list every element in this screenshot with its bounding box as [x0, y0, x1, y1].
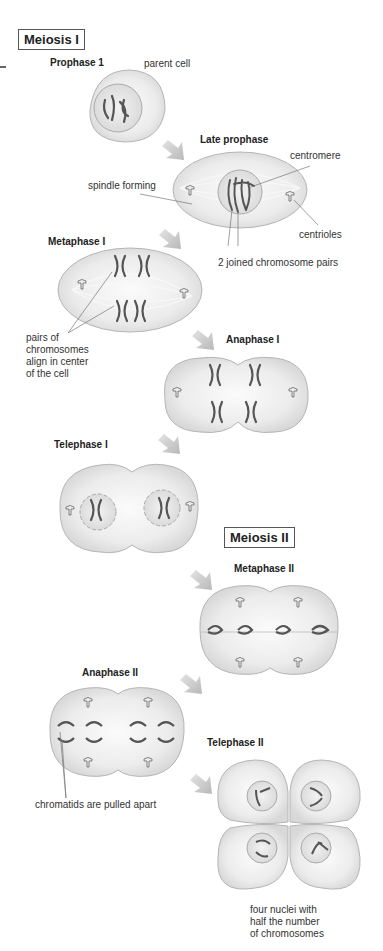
stage-anaphase2: Anaphase II	[82, 667, 138, 678]
label-centrioles: centrioles	[299, 229, 342, 241]
prophase1-cell	[90, 70, 165, 142]
label-joined-pairs: 2 joined chromosome pairs	[218, 257, 338, 269]
stage-anaphase1: Anaphase I	[226, 334, 279, 345]
metaphase1-cell	[58, 248, 202, 332]
stage-prophase1: Prophase 1	[50, 57, 104, 68]
stage-telephase2: Telephase II	[207, 737, 264, 748]
stage-metaphase1: Metaphase I	[48, 236, 105, 247]
stage-late-prophase: Late prophase	[200, 134, 268, 145]
late-prophase-cell	[173, 152, 307, 228]
meiosis2-heading: Meiosis II	[224, 527, 295, 548]
label-line: pairs of	[26, 332, 89, 344]
label-line: chromosomes	[26, 344, 89, 356]
telephase1-cell	[60, 464, 198, 552]
label-line: of chromosomes	[250, 928, 324, 940]
label-centromere: centromere	[290, 150, 341, 162]
label-line: four nuclei with	[250, 904, 324, 916]
label-line: of the cell	[26, 368, 89, 380]
label-spindle-forming: spindle forming	[88, 180, 156, 192]
label-line: half the number	[250, 916, 324, 928]
metaphase2-cell	[200, 586, 338, 675]
meiosis1-heading: Meiosis I	[18, 29, 85, 50]
label-align-center: pairs of chromosomes align in center of …	[26, 332, 89, 380]
label-chromatids: chromatids are pulled apart	[35, 799, 156, 811]
anaphase1-cell	[164, 357, 308, 432]
anaphase2-cell	[50, 688, 184, 777]
label-four-nuclei: four nuclei with half the number of chro…	[250, 904, 324, 940]
telephase2-cells	[218, 760, 360, 889]
stage-telephase1: Telephase I	[54, 439, 108, 450]
stage-metaphase2: Metaphase II	[234, 563, 294, 574]
label-parent-cell: parent cell	[144, 58, 190, 70]
label-line: align in center	[26, 356, 89, 368]
